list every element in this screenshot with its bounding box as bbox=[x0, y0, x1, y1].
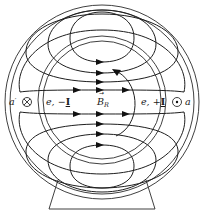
machine-diagram bbox=[0, 0, 204, 219]
label-a-prime: a′ bbox=[9, 97, 16, 107]
field-line-bottom-1 bbox=[70, 145, 134, 188]
field-line-top-1 bbox=[70, 12, 134, 62]
label-left-emf-current: e, −I bbox=[46, 97, 70, 107]
base bbox=[49, 180, 155, 209]
label-field-vector: BR bbox=[97, 97, 109, 109]
arrow-right-icon bbox=[96, 111, 104, 117]
arrow-right-icon bbox=[96, 131, 104, 137]
arrow-right-icon bbox=[96, 59, 104, 65]
arrow-right-icon bbox=[96, 121, 104, 127]
arrow-right-icon bbox=[73, 87, 81, 93]
arrow-right-icon bbox=[96, 70, 104, 76]
base-trapezoid bbox=[49, 180, 155, 209]
arrow-right-icon bbox=[96, 142, 104, 148]
arrow-right-icon bbox=[96, 79, 104, 85]
arrow-right-icon bbox=[122, 87, 130, 93]
arrow-right-icon bbox=[73, 111, 81, 117]
arrow-right-icon bbox=[122, 111, 130, 117]
label-a: a bbox=[185, 97, 191, 107]
conductor-a-prime bbox=[23, 98, 32, 107]
field-line-bottom-4 bbox=[19, 112, 185, 174]
label-right-emf-current: e, +I bbox=[141, 97, 165, 107]
field-line-top-2 bbox=[48, 10, 156, 73]
conductor-a bbox=[173, 98, 182, 107]
